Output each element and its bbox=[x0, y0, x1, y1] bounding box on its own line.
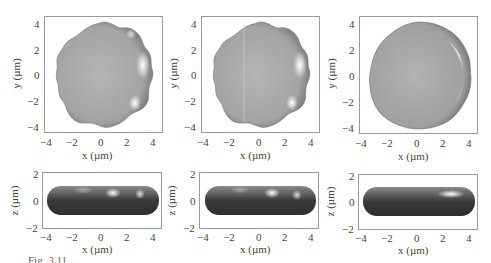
cell-sideview bbox=[359, 175, 479, 231]
axes-box bbox=[199, 172, 319, 229]
xtick: 0 bbox=[256, 232, 262, 243]
xtick: −4 bbox=[197, 232, 209, 243]
ztick: 0 bbox=[190, 196, 196, 207]
ztick: 2 bbox=[190, 169, 196, 180]
xtick: −2 bbox=[66, 232, 78, 243]
xtick: −2 bbox=[66, 137, 78, 148]
x-axis-label: x (µm) bbox=[240, 150, 270, 161]
y-axis-label: y (µm) bbox=[326, 54, 337, 94]
xtick: −2 bbox=[223, 137, 235, 148]
cell-topview-wavy bbox=[45, 17, 164, 134]
cell-sideview bbox=[200, 173, 320, 230]
ytick: 2 bbox=[34, 45, 40, 56]
axes-box bbox=[201, 16, 320, 133]
xtick: 4 bbox=[308, 232, 314, 243]
axes-box bbox=[42, 172, 162, 229]
ytick: −4 bbox=[342, 123, 354, 134]
x-axis-label: x (µm) bbox=[240, 244, 270, 255]
cell-topview-round bbox=[360, 17, 479, 135]
ztick: −2 bbox=[342, 224, 354, 235]
xtick: −4 bbox=[197, 137, 209, 148]
xtick: 2 bbox=[282, 137, 288, 148]
xtick: 2 bbox=[440, 138, 446, 149]
xtick: 2 bbox=[440, 233, 446, 244]
xtick: 2 bbox=[282, 232, 288, 243]
axes-box bbox=[358, 174, 478, 230]
ytick: 4 bbox=[349, 19, 355, 30]
xtick: 4 bbox=[308, 137, 314, 148]
z-axis-label: z (µm) bbox=[9, 181, 20, 221]
x-axis-label: x (µm) bbox=[398, 245, 428, 256]
ztick: 0 bbox=[33, 196, 39, 207]
xtick: −2 bbox=[223, 232, 235, 243]
xtick: 0 bbox=[98, 137, 104, 148]
figure-caption: Fig. 3.11 ... bbox=[28, 254, 78, 263]
xtick: 0 bbox=[414, 233, 420, 244]
xtick: −2 bbox=[381, 233, 393, 244]
ytick: 4 bbox=[191, 19, 197, 30]
xtick: 2 bbox=[124, 137, 130, 148]
z-axis-label: z (µm) bbox=[325, 182, 336, 222]
ztick: 0 bbox=[349, 197, 355, 208]
x-axis-label: x (µm) bbox=[82, 150, 112, 161]
ztick: 2 bbox=[33, 169, 39, 180]
xtick: 4 bbox=[150, 232, 156, 243]
xtick: 0 bbox=[98, 232, 104, 243]
axes-box bbox=[44, 16, 163, 133]
ztick: −2 bbox=[183, 223, 195, 234]
xtick: 4 bbox=[466, 233, 472, 244]
ytick: −2 bbox=[184, 96, 196, 107]
x-axis-label: x (µm) bbox=[82, 244, 112, 255]
xtick: 0 bbox=[414, 138, 420, 149]
cell-sideview bbox=[43, 173, 163, 230]
ytick: 0 bbox=[34, 70, 40, 81]
ytick: 4 bbox=[34, 19, 40, 30]
ztick: 2 bbox=[349, 171, 355, 182]
ytick: −4 bbox=[184, 122, 196, 133]
ytick: −4 bbox=[27, 122, 39, 133]
x-axis-label: x (µm) bbox=[398, 151, 428, 162]
ytick: −2 bbox=[342, 97, 354, 108]
xtick: 4 bbox=[466, 138, 472, 149]
ytick: 2 bbox=[349, 45, 355, 56]
ytick: −2 bbox=[27, 96, 39, 107]
ytick: 2 bbox=[191, 45, 197, 56]
axes-box bbox=[359, 16, 478, 134]
xtick: −4 bbox=[40, 232, 52, 243]
xtick: 0 bbox=[256, 137, 262, 148]
cell-topview-wavy bbox=[202, 17, 321, 134]
ytick: 0 bbox=[191, 70, 197, 81]
xtick: −4 bbox=[355, 233, 367, 244]
ztick: −2 bbox=[26, 223, 38, 234]
xtick: −4 bbox=[355, 138, 367, 149]
z-axis-label: z (µm) bbox=[166, 181, 177, 221]
xtick: 2 bbox=[124, 232, 130, 243]
ytick: 0 bbox=[349, 71, 355, 82]
xtick: −4 bbox=[40, 137, 52, 148]
y-axis-label: y (µm) bbox=[11, 54, 22, 94]
xtick: −2 bbox=[381, 138, 393, 149]
y-axis-label: y (µm) bbox=[168, 54, 179, 94]
xtick: 4 bbox=[150, 137, 156, 148]
